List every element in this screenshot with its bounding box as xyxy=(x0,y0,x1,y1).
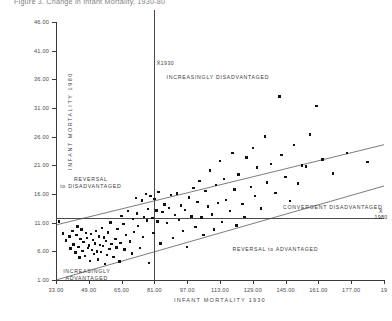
scatter-point xyxy=(270,163,272,165)
scatter-point xyxy=(103,236,105,238)
scatter-point xyxy=(209,169,211,171)
scatter-point xyxy=(211,213,213,215)
scatter-point xyxy=(82,241,84,243)
scatter-point xyxy=(161,211,163,213)
scatter-point xyxy=(366,161,368,163)
scatter-point xyxy=(119,242,121,244)
scatter-point xyxy=(90,233,92,235)
plot-area: 46.0041.0036.0031.0026.0021.0016.0011.00… xyxy=(56,22,356,280)
scatter-point xyxy=(125,234,127,236)
region-label-line: REVERSAL xyxy=(36,176,146,184)
scatter-point xyxy=(68,235,70,237)
scatter-point xyxy=(229,210,231,212)
scatter-point xyxy=(143,216,145,218)
scatter-point xyxy=(71,230,73,232)
scatter-point xyxy=(76,225,78,227)
scatter-point xyxy=(153,198,155,200)
scatter-point xyxy=(122,223,124,225)
scatter-point xyxy=(204,190,206,192)
scatter-point xyxy=(132,218,134,220)
scatter-point xyxy=(106,254,108,256)
x-tick-label: 19 xyxy=(364,287,392,293)
scatter-point xyxy=(100,251,102,253)
scatter-point xyxy=(188,196,190,198)
scatter-point xyxy=(58,220,60,222)
scatter-point xyxy=(79,238,81,240)
y-tick-label: 16.00 xyxy=(15,191,49,197)
lower-band xyxy=(56,186,384,280)
scatter-point xyxy=(301,164,303,166)
scatter-point xyxy=(186,246,188,248)
scatter-point xyxy=(237,173,239,175)
scatter-point xyxy=(221,221,223,223)
scatter-point xyxy=(108,248,110,250)
scatter-point xyxy=(274,192,276,194)
scatter-point xyxy=(116,228,118,230)
scatter-point xyxy=(77,246,79,248)
scatter-point xyxy=(110,243,112,245)
scatter-point xyxy=(202,234,204,236)
scatter-point xyxy=(245,156,247,158)
mean-year: 1980 xyxy=(374,214,387,220)
scatter-point xyxy=(80,228,82,230)
scatter-point xyxy=(91,249,93,251)
scatter-point xyxy=(256,166,258,168)
scatter-point xyxy=(223,178,225,180)
scatter-point xyxy=(170,194,172,196)
region-label: REVERSAL to ADVANTAGED xyxy=(220,246,330,254)
scatter-point xyxy=(142,236,144,238)
region-label: INCREASINGLY DISADVANTAGED xyxy=(163,74,273,82)
y-tick-label: 26.00 xyxy=(15,134,49,140)
scatter-point xyxy=(332,172,334,174)
x-tick xyxy=(154,280,155,284)
y-tick-label: 41.00 xyxy=(15,48,49,54)
scatter-point xyxy=(84,255,86,257)
scatter-point xyxy=(146,219,148,221)
scatter-point xyxy=(233,188,235,190)
y-tick-label: 11.00 xyxy=(15,220,49,226)
scatter-point xyxy=(196,201,198,203)
scatter-point xyxy=(123,248,125,250)
band-lines xyxy=(56,22,356,280)
scatter-point xyxy=(213,228,215,230)
scatter-point xyxy=(98,235,100,237)
x-tick xyxy=(187,280,188,284)
y-tick-label: 31.00 xyxy=(15,105,49,111)
mean-marker-1980: X̄1980 xyxy=(368,209,392,220)
scatter-point xyxy=(133,231,135,233)
scatter-point xyxy=(182,230,184,232)
x-tick xyxy=(253,280,254,284)
scatter-point xyxy=(92,239,94,241)
scatter-point xyxy=(129,240,131,242)
scatter-point xyxy=(149,195,151,197)
scatter-point xyxy=(321,158,323,160)
scatter-point xyxy=(65,239,67,241)
scatter-point xyxy=(99,244,101,246)
mean-year: 1930 xyxy=(161,60,174,66)
scatter-point xyxy=(219,160,221,162)
scatter-point xyxy=(75,234,77,236)
scatter-point xyxy=(97,258,99,260)
region-label-line: REVERSAL to ADVANTAGED xyxy=(220,246,330,254)
scatter-point xyxy=(88,244,90,246)
scatter-point xyxy=(118,260,120,262)
region-label-line: ADVANTAGED xyxy=(32,275,142,283)
scatter-point xyxy=(101,227,103,229)
scatter-point xyxy=(194,226,196,228)
scatter-point xyxy=(96,250,98,252)
scatter-point xyxy=(72,243,74,245)
scatter-point xyxy=(190,215,192,217)
scatter-point xyxy=(241,203,243,205)
y-tick-label: 21.00 xyxy=(15,162,49,168)
scatter-point xyxy=(78,256,80,258)
scatter-point xyxy=(152,232,154,234)
scatter-point xyxy=(174,214,176,216)
scatter-point xyxy=(309,133,311,135)
scatter-point xyxy=(250,186,252,188)
region-label-line: INCREASINGLY DISADVANTAGED xyxy=(163,74,273,82)
scatter-point xyxy=(231,152,233,154)
scatter-point xyxy=(168,207,170,209)
scatter-point xyxy=(139,247,141,249)
scatter-point xyxy=(235,224,237,226)
